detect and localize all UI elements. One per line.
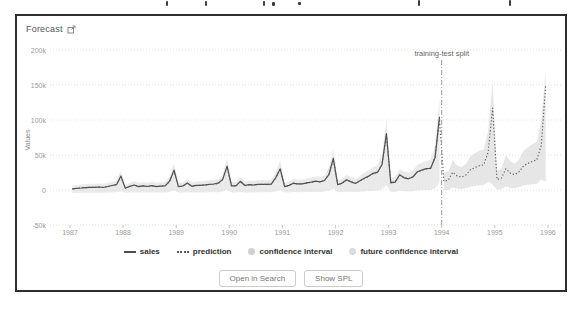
svg-text:1989: 1989 xyxy=(168,229,184,236)
svg-text:200k: 200k xyxy=(31,47,47,54)
svg-text:1994: 1994 xyxy=(434,229,450,236)
svg-text:Values: Values xyxy=(24,129,31,150)
future-confidence-interval-swatch xyxy=(349,248,356,255)
sales-line-swatch xyxy=(124,251,136,253)
show-spl-button[interactable]: Show SPL xyxy=(304,270,363,287)
confidence-interval-swatch xyxy=(248,248,255,255)
panel-actions: Open in Search Show SPL xyxy=(17,270,565,287)
legend-item-sales[interactable]: sales xyxy=(124,247,160,256)
cropped-text-fragments xyxy=(0,0,584,9)
svg-text:1996: 1996 xyxy=(540,229,556,236)
legend-label: sales xyxy=(140,247,160,256)
svg-text:-50k: -50k xyxy=(32,222,46,229)
svg-text:50k: 50k xyxy=(35,152,47,159)
svg-text:1987: 1987 xyxy=(62,229,78,236)
prediction-line-swatch xyxy=(177,251,189,253)
svg-text:1990: 1990 xyxy=(222,229,238,236)
svg-text:1992: 1992 xyxy=(328,229,344,236)
legend-label: confidence interval xyxy=(259,247,332,256)
legend-item-future-confidence-interval[interactable]: future confidence interval xyxy=(349,247,458,256)
legend-label: future confidence interval xyxy=(360,247,458,256)
svg-text:150k: 150k xyxy=(31,82,47,89)
svg-text:100k: 100k xyxy=(31,117,47,124)
forecast-chart[interactable]: 200k150k100k50k0-50k19871988198919901991… xyxy=(17,16,565,244)
svg-text:1988: 1988 xyxy=(115,229,131,236)
svg-text:1995: 1995 xyxy=(487,229,503,236)
svg-text:0: 0 xyxy=(42,187,46,194)
legend-item-prediction[interactable]: prediction xyxy=(177,247,232,256)
svg-text:1991: 1991 xyxy=(275,229,291,236)
chart-legend: sales prediction confidence interval fut… xyxy=(17,247,565,256)
legend-item-confidence-interval[interactable]: confidence interval xyxy=(248,247,332,256)
legend-label: prediction xyxy=(193,247,232,256)
screenshot-stage: Forecast 200k150k100k50k0-50k19871988198… xyxy=(0,0,584,309)
svg-text:1993: 1993 xyxy=(381,229,397,236)
open-in-search-button[interactable]: Open in Search xyxy=(219,270,297,287)
forecast-panel: Forecast 200k150k100k50k0-50k19871988198… xyxy=(15,14,567,292)
svg-text:training-test split: training-test split xyxy=(414,49,470,58)
